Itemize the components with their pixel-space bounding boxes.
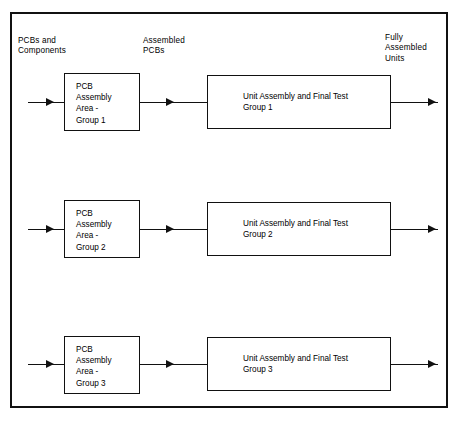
label-assembled-pcbs: Assembled PCBs bbox=[143, 36, 185, 57]
pcb-assembly-box-group-3[interactable]: PCB Assembly Area - Group 3 bbox=[64, 336, 140, 394]
label-fully-assembled-units: Fully Assembled Units bbox=[385, 33, 427, 64]
pcb-assembly-box-label-group-1: PCB Assembly Area - Group 1 bbox=[76, 81, 112, 126]
pcb-assembly-box-label-group-2: PCB Assembly Area - Group 2 bbox=[76, 208, 112, 253]
output-arrow-icon-group-2 bbox=[428, 225, 436, 233]
input-arrow-icon-group-3 bbox=[46, 360, 54, 368]
unit-assembly-box-group-2[interactable]: Unit Assembly and Final Test Group 2 bbox=[207, 202, 391, 256]
unit-assembly-box-label-group-1: Unit Assembly and Final Test Group 1 bbox=[243, 91, 348, 113]
unit-assembly-box-group-1[interactable]: Unit Assembly and Final Test Group 1 bbox=[207, 75, 391, 129]
process-flow-diagram: PCBs and Components Assembled PCBs Fully… bbox=[0, 0, 458, 426]
unit-assembly-box-label-group-2: Unit Assembly and Final Test Group 2 bbox=[243, 218, 348, 240]
output-arrow-icon-group-3 bbox=[428, 360, 436, 368]
unit-assembly-box-label-group-3: Unit Assembly and Final Test Group 3 bbox=[243, 353, 348, 375]
label-pcbs-and-components: PCBs and Components bbox=[18, 36, 66, 57]
input-arrow-icon-group-1 bbox=[46, 98, 54, 106]
unit-assembly-box-group-3[interactable]: Unit Assembly and Final Test Group 3 bbox=[207, 337, 391, 391]
intermediate-arrow-icon-group-2 bbox=[166, 225, 174, 233]
output-arrow-icon-group-1 bbox=[428, 98, 436, 106]
pcb-assembly-box-label-group-3: PCB Assembly Area - Group 3 bbox=[76, 344, 112, 389]
pcb-assembly-box-group-2[interactable]: PCB Assembly Area - Group 2 bbox=[64, 200, 140, 258]
intermediate-arrow-icon-group-3 bbox=[166, 360, 174, 368]
pcb-assembly-box-group-1[interactable]: PCB Assembly Area - Group 1 bbox=[64, 73, 140, 131]
intermediate-arrow-icon-group-1 bbox=[166, 98, 174, 106]
input-arrow-icon-group-2 bbox=[46, 225, 54, 233]
